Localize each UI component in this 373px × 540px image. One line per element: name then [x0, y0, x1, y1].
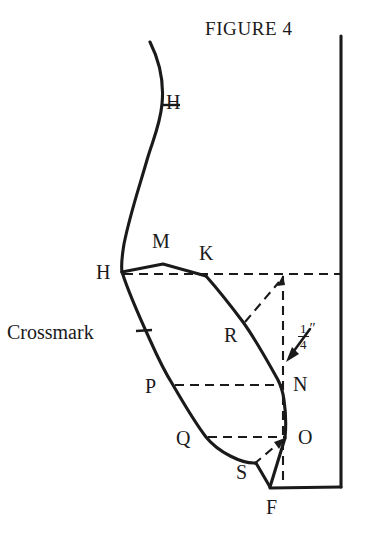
- measurement-annotation: 1 4 ″: [298, 322, 316, 352]
- fraction-one-quarter: 1 4: [298, 322, 309, 352]
- fraction-denominator: 4: [298, 337, 309, 351]
- right-side-curve: [206, 276, 286, 438]
- point-label-m: M: [152, 231, 170, 251]
- point-label-o: O: [298, 427, 312, 447]
- point-label-q: Q: [176, 428, 190, 448]
- point-label-h: H: [96, 262, 110, 282]
- figure-title: FIGURE 4: [205, 18, 293, 40]
- fraction-numerator: 1: [298, 322, 309, 337]
- point-label-f: F: [266, 497, 277, 517]
- inch-mark: ″: [310, 321, 316, 336]
- point-label-n: N: [293, 374, 307, 394]
- r-diagonal-guide: [245, 282, 279, 322]
- hmk-outline: [122, 264, 206, 276]
- bottom-edge-line: [270, 487, 341, 488]
- figure-diagram: FIGURE 4 Crossmark H H M K R P N Q O S F…: [0, 0, 373, 540]
- point-label-s: S: [236, 462, 247, 482]
- crossmark-label: Crossmark: [7, 321, 94, 344]
- point-label-p: P: [145, 376, 156, 396]
- crossmark-tick: [136, 330, 152, 331]
- pattern-drawing: [0, 0, 373, 540]
- point-label-h-upper: H: [166, 92, 180, 112]
- sf-segment: [256, 463, 270, 487]
- s-o-guide: [254, 443, 279, 464]
- point-label-k: K: [199, 243, 213, 263]
- point-label-r: R: [224, 325, 237, 345]
